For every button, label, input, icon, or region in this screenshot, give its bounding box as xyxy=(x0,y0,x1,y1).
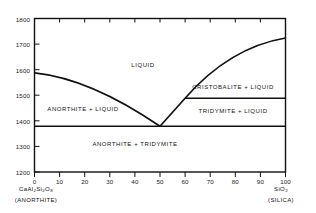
x-tick-label-30: 30 xyxy=(101,178,119,185)
x-tick-label-0: 0 xyxy=(26,178,44,185)
x-tick-label-10: 10 xyxy=(51,178,69,185)
field-label-anorthite-liquid: ANORTHITE + LIQUID xyxy=(38,106,128,112)
left-endmember-name: (ANORTHITE) xyxy=(7,197,65,203)
x-tick-label-60: 60 xyxy=(176,178,194,185)
field-label-tridymite-liquid: TRIDYMITE + LIQUID xyxy=(188,108,278,114)
x-tick-label-40: 40 xyxy=(126,178,144,185)
field-label-cristobalite-liquid: CRISTOBALITE + LIQUID xyxy=(183,84,283,90)
left-endmember-formula: CaAl2Si2O8 xyxy=(7,186,65,192)
plot-frame xyxy=(35,19,286,173)
y-tick-label-1200: 1200 xyxy=(8,169,30,176)
x-tick-label-100: 100 xyxy=(277,178,295,185)
field-label-liquid: LIQUID xyxy=(113,62,173,68)
y-tick-label-1800: 1800 xyxy=(8,16,30,23)
x-tick-label-90: 90 xyxy=(251,178,269,185)
field-label-anorthite-tridymite: ANORTHITE + TRIDYMITE xyxy=(80,141,190,147)
y-tick-label-1500: 1500 xyxy=(8,92,30,99)
right-endmember-name: (SILICA) xyxy=(259,197,303,203)
phase-diagram-figure: 1800 1700 1600 1500 1400 1300 1200 0 10 … xyxy=(0,0,316,213)
y-tick-label-1300: 1300 xyxy=(8,143,30,150)
x-tick-label-20: 20 xyxy=(76,178,94,185)
right-endmember-formula: SiO2 xyxy=(259,186,303,192)
y-tick-label-1600: 1600 xyxy=(8,67,30,74)
x-tick-label-70: 70 xyxy=(201,178,219,185)
x-tick-label-80: 80 xyxy=(226,178,244,185)
x-tick-label-50: 50 xyxy=(151,178,169,185)
y-tick-label-1700: 1700 xyxy=(8,41,30,48)
x-axis-ticks-bottom xyxy=(35,172,286,177)
y-tick-label-1400: 1400 xyxy=(8,118,30,125)
